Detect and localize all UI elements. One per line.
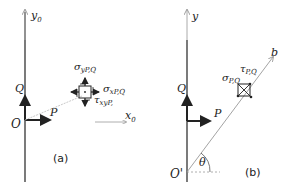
- sigma-x-label: σxP,Q: [103, 83, 125, 96]
- x0-label: x0: [125, 109, 136, 124]
- y0-label: y0: [30, 9, 42, 24]
- caption-b: (b): [245, 166, 261, 179]
- tau-pq-label: τP,Q: [240, 63, 257, 76]
- diagram: y0 x0 O P Q σyP,Q σxP,Q τxyP, (a) y b θ: [0, 0, 288, 190]
- q-label-b: Q: [177, 82, 186, 95]
- b-label: b: [271, 46, 278, 59]
- panel-a: y0 x0 O P Q σyP,Q σxP,Q τxyP, (a): [11, 9, 136, 182]
- p-label-b: P: [213, 107, 222, 120]
- origin-label: O: [11, 117, 21, 131]
- origin-b-label: O': [170, 167, 183, 181]
- y-label: y: [191, 10, 199, 23]
- sigma-y-label: σyP,Q: [74, 61, 96, 74]
- panel-b: y b θ O' P Q σP,Q τP,Q (b): [170, 10, 278, 182]
- theta-label: θ: [199, 156, 206, 169]
- q-label: Q: [15, 82, 24, 95]
- caption-a: (a): [53, 152, 68, 165]
- b-axis: [187, 57, 273, 172]
- sigma-pq-label: σP,Q: [222, 72, 240, 85]
